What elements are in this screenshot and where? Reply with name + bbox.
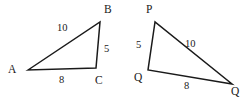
side-label-ab: 10 [57, 23, 68, 34]
triangle-pqr-shape [148, 22, 232, 84]
vertex-label-p: P [146, 4, 152, 16]
vertex-label-c: C [95, 75, 103, 87]
vertex-label-r: Q [231, 86, 239, 98]
side-label-bc: 5 [104, 44, 109, 55]
side-label-qr: 8 [184, 81, 189, 92]
vertex-label-q: Q [134, 72, 142, 84]
geometry-figure: A B C 10 5 8 P Q Q 5 10 8 [0, 0, 245, 103]
vertex-label-b: B [104, 4, 112, 16]
triangles-drawing [0, 0, 245, 103]
side-label-ac: 8 [59, 75, 64, 86]
side-label-pr: 10 [185, 39, 196, 50]
side-label-pq: 5 [136, 40, 141, 51]
triangle-pqr-outline [148, 22, 232, 84]
vertex-label-a: A [8, 64, 16, 76]
